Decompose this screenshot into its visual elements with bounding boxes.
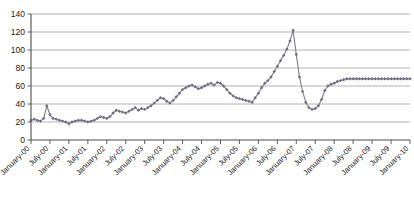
svg-text:20: 20 [16,117,26,127]
svg-text:80: 80 [16,63,26,73]
y-axis-labels-group: 020406080100120140 [11,9,25,145]
svg-text:140: 140 [11,9,25,19]
x-axis-ticks-group [31,140,410,144]
gridlines-group [31,14,410,122]
x-axis-labels-group: January-00July-00January-01July-01Januar… [0,144,410,177]
svg-text:60: 60 [16,81,26,91]
svg-text:40: 40 [16,99,26,109]
chart-plot-area: 020406080100120140 January-00July-00Janu… [0,0,414,206]
series-markers-group [29,29,411,126]
line-chart: 020406080100120140 January-00July-00Janu… [0,0,414,206]
series-line-1 [31,30,410,124]
svg-text:100: 100 [11,45,25,55]
svg-text:120: 120 [11,27,25,37]
svg-text:0: 0 [20,135,25,145]
